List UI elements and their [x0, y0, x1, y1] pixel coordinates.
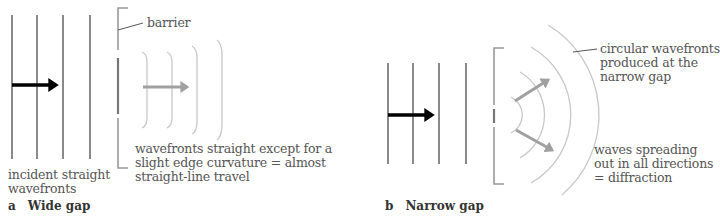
panel-b-barrier: [494, 48, 504, 184]
circular-wavefronts-label-line2: produced at the: [600, 56, 698, 70]
diffraction-label-line3: = diffraction: [594, 171, 672, 185]
barrier-label: barrier: [147, 16, 190, 30]
wide-gap-result-label-line2: slight edge curvature = almost: [135, 156, 326, 170]
circular-wavefronts-label-line1: circular wavefronts: [600, 42, 720, 56]
circular-wavefronts-label-line3: narrow gap: [600, 70, 671, 84]
panel-a-incident-wavefronts: [12, 15, 90, 159]
panel-b-diffracted-arrow-up: [515, 80, 548, 101]
panel-b-caption-title: Narrow gap: [405, 199, 483, 213]
wide-gap-result-label-line1: wavefronts straight except for a: [135, 142, 332, 156]
incident-wavefronts-label-line1: incident straight: [8, 168, 110, 182]
wide-gap-result-label-line3: straight-line travel: [135, 170, 250, 184]
diffraction-label-line2: out in all directions: [594, 157, 713, 171]
panel-b-caption: bNarrow gap: [385, 199, 484, 213]
panel-b-caption-letter: b: [385, 199, 393, 213]
panel-a-barrier-leader-line: [118, 23, 143, 30]
panel-a-caption-title: Wide gap: [28, 199, 91, 213]
incident-wavefronts-label-line2: wavefronts: [8, 182, 76, 196]
panel-b-diffracted-arrow-down: [516, 130, 552, 150]
panel-a-barrier: [118, 8, 128, 168]
panel-a-caption: aWide gap: [8, 199, 90, 213]
panel-a-caption-letter: a: [8, 199, 16, 213]
diffraction-label-line1: waves spreading: [594, 143, 697, 157]
panel-a-transmitted-wavefronts: [142, 40, 222, 140]
